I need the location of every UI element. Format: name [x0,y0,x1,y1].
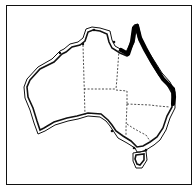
marker-dot [133,147,136,150]
border-nt-qld [116,50,119,89]
border-sa-nsw [126,104,127,136]
australia-map [0,0,195,190]
tasmania-outline-inner [135,154,144,165]
coastline-outer [24,24,175,152]
marker-dot [145,149,148,152]
border-nsw-vic [127,124,150,141]
border-sa-qld [116,90,127,104]
marker-dot [93,29,96,32]
highlighted-coast [121,26,174,104]
border-wa [83,45,85,115]
marker-dot [82,43,84,45]
marker-dot [59,52,61,54]
marker-dot [111,130,114,133]
marker-dot [113,41,116,44]
border-qld-nsw [127,104,170,107]
